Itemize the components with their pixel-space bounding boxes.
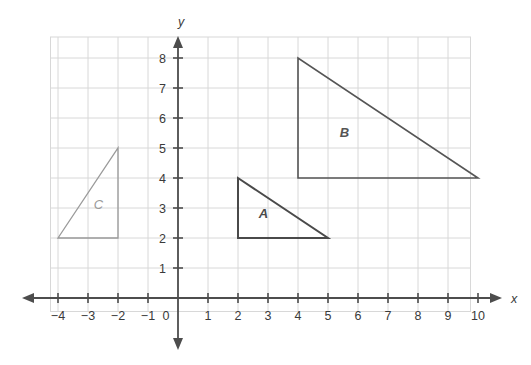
- triangle-label-A: A: [258, 206, 268, 221]
- triangle-label-B: B: [340, 125, 349, 140]
- x-tick-label: 10: [471, 309, 485, 323]
- x-axis-arrow-right: [490, 293, 502, 303]
- y-tick-label: 4: [159, 172, 166, 186]
- x-axis-label: x: [510, 292, 518, 306]
- coordinate-plane-figure: −4−3−2−112345678910123456780xy ABC: [0, 0, 531, 365]
- x-axis-arrow-left: [22, 293, 34, 303]
- y-tick-label: 7: [159, 82, 166, 96]
- y-axis-arrow-up: [173, 36, 183, 48]
- y-tick-label: 2: [159, 232, 166, 246]
- grid-lines: [51, 37, 471, 312]
- x-tick-label: 5: [325, 309, 332, 323]
- y-tick-label: 8: [159, 52, 166, 66]
- y-tick-label: 3: [159, 202, 166, 216]
- grid-border: [51, 37, 471, 312]
- y-axis-arrow-down: [173, 338, 183, 350]
- coordinate-plane-svg: −4−3−2−112345678910123456780xy ABC: [0, 0, 531, 365]
- shape-labels: ABC: [94, 125, 349, 221]
- y-tick-label: 5: [159, 142, 166, 156]
- x-tick-label: −4: [51, 309, 65, 323]
- y-axis-label: y: [177, 15, 185, 29]
- y-tick-label: 6: [159, 112, 166, 126]
- x-tick-label: 3: [265, 309, 272, 323]
- x-tick-label: 6: [355, 309, 362, 323]
- y-tick-label: 1: [159, 262, 166, 276]
- x-tick-label: −3: [81, 309, 95, 323]
- x-tick-label: 2: [235, 309, 242, 323]
- x-tick-label: −2: [111, 309, 125, 323]
- triangle-label-C: C: [94, 197, 104, 212]
- x-tick-label: 8: [415, 309, 422, 323]
- origin-label: 0: [163, 309, 170, 323]
- x-tick-label: 4: [295, 309, 302, 323]
- x-tick-label: 7: [385, 309, 392, 323]
- x-tick-label: 9: [445, 309, 452, 323]
- x-tick-label: 1: [205, 309, 212, 323]
- x-tick-label: −1: [141, 309, 155, 323]
